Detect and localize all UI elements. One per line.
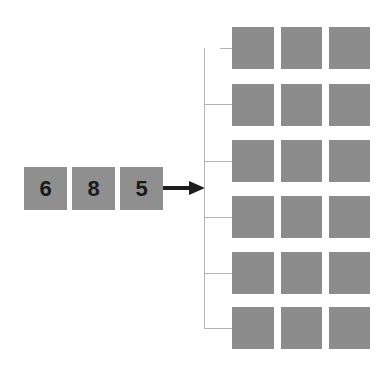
bracket-tick-5 bbox=[204, 273, 232, 274]
grid-cell bbox=[329, 27, 370, 69]
digit-box-3: 5 bbox=[120, 167, 163, 210]
arrow-right-icon bbox=[163, 180, 207, 196]
grid-cell bbox=[281, 27, 322, 69]
digit-box-1: 6 bbox=[24, 167, 67, 210]
grid-cell bbox=[329, 140, 370, 182]
grid-cell bbox=[329, 252, 370, 294]
grid-cell bbox=[232, 307, 274, 349]
bracket-tick-3 bbox=[204, 161, 232, 162]
bracket-vertical-line bbox=[204, 48, 205, 329]
grid-cell bbox=[281, 196, 322, 238]
grid-cell bbox=[232, 140, 274, 182]
grid-cell bbox=[232, 196, 274, 238]
grid-cell bbox=[329, 196, 370, 238]
grid-cell bbox=[232, 84, 274, 126]
grid-cell bbox=[281, 252, 322, 294]
bracket-tick-2 bbox=[204, 104, 232, 105]
bracket-tick-1 bbox=[220, 48, 232, 49]
bracket-tick-4 bbox=[204, 217, 232, 218]
grid-cell bbox=[281, 307, 322, 349]
grid-cell bbox=[281, 84, 322, 126]
grid-cell bbox=[232, 252, 274, 294]
grid-cell bbox=[329, 84, 370, 126]
bracket-tick-6 bbox=[204, 328, 232, 329]
digit-box-2: 8 bbox=[72, 167, 115, 210]
grid-cell bbox=[329, 307, 370, 349]
grid-cell bbox=[232, 27, 274, 69]
grid-cell bbox=[281, 140, 322, 182]
